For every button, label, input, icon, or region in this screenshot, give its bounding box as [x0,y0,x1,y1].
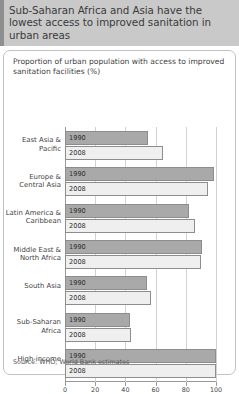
bar-1990: 1990 [65,131,148,145]
category-label: East Asia & Pacific [0,136,61,153]
bar-series-label: 1990 [69,134,86,142]
source-note: Source: WHO; World Bank estimates [13,358,129,366]
bar-1990: 1990 [65,276,147,290]
bar-1990: 1990 [65,204,189,218]
bar-series-label: 2008 [69,222,86,230]
category-label: Europe & Central Asia [0,173,61,190]
bar-group: Europe & Central Asia19902008 [65,167,216,196]
bar-series-label: 2008 [69,258,86,266]
bar-series-label: 2008 [69,185,86,193]
category-label: Latin America & Caribbean [0,209,61,226]
x-tick-label: 100 [210,386,222,394]
chart-panel: Proportion of urban population with acce… [3,50,236,375]
bar-series-label: 1990 [69,170,86,178]
bar-series-label: 2008 [69,294,86,302]
chart-subtitle: Proportion of urban population with acce… [13,57,229,76]
plot-area: 020406080100 East Asia & Pacific19902008… [65,127,216,382]
bar-group: East Asia & Pacific19902008 [65,131,216,160]
x-tick-label: 80 [182,386,190,394]
bar-series-label: 1990 [69,316,86,324]
category-label: Sub-Saharan Africa [0,318,61,335]
bar-group: Latin America & Caribbean19902008 [65,204,216,233]
bar-2008: 2008 [65,146,163,160]
bar-2008: 2008 [65,328,131,342]
chart-headline: Sub-Saharan Africa and Asia have the low… [9,4,233,41]
bar-group: Sub-Saharan Africa19902008 [65,313,216,342]
bar-1990: 1990 [65,167,214,181]
header-accent-stripe [0,0,4,46]
x-tick-label: 0 [63,386,67,394]
x-tick-label: 60 [152,386,160,394]
bar-series-label: 1990 [69,243,86,251]
bar-series-label: 2008 [69,367,86,375]
bar-2008: 2008 [65,364,216,378]
bar-2008: 2008 [65,182,208,196]
bar-series-label: 1990 [69,279,86,287]
header-band: Sub-Saharan Africa and Asia have the low… [0,0,239,46]
gridline [216,127,217,382]
bar-2008: 2008 [65,291,151,305]
x-tick-label: 40 [121,386,129,394]
category-label: South Asia [0,282,61,290]
category-label: Middle East & North Africa [0,246,61,263]
bar-group: Middle East & North Africa19902008 [65,240,216,269]
bar-series-label: 1990 [69,207,86,215]
bar-1990: 1990 [65,240,202,254]
bar-series-label: 2008 [69,149,86,157]
bar-group: South Asia19902008 [65,276,216,305]
bar-2008: 2008 [65,219,195,233]
bar-2008: 2008 [65,255,201,269]
bar-1990: 1990 [65,313,130,327]
bar-series-label: 2008 [69,331,86,339]
x-tick-label: 20 [91,386,99,394]
